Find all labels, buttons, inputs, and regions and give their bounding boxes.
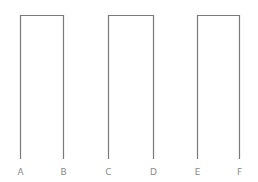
label-c: C [105,167,111,177]
u-shape-2-path [109,16,154,160]
label-b: B [60,167,66,177]
u-shape-1: A B [17,16,66,178]
label-d: D [150,167,157,177]
u-shape-3: E F [195,16,242,178]
u-shape-diagram: A B C D E F [0,0,258,182]
label-f: F [237,167,242,177]
u-shape-3-path [198,16,240,160]
u-shape-2: C D [105,16,157,178]
label-a: A [17,167,24,177]
label-e: E [195,167,201,177]
u-shape-1-path [21,16,64,160]
